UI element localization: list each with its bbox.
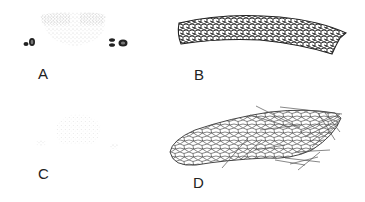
panel-a-drawing xyxy=(24,12,128,47)
panel-b-drawing xyxy=(178,15,346,54)
panel-label-d: D xyxy=(193,175,204,190)
panel-label-c: C xyxy=(38,166,49,181)
panel-c-drawing xyxy=(36,114,118,149)
panel-d-drawing xyxy=(170,106,342,170)
panel-label-b: B xyxy=(194,67,204,82)
panel-label-a: A xyxy=(38,66,48,81)
figure-canvas xyxy=(0,0,365,202)
